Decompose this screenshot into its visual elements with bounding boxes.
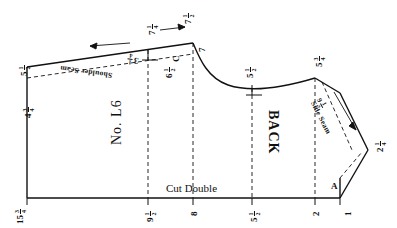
dim-bottom-center-right: 512 <box>248 212 261 223</box>
top-notch-arrow-head <box>178 24 185 30</box>
dim-whole: 9 <box>145 218 155 223</box>
dim-fraction: 12 <box>244 68 257 73</box>
dim-whole: 5 <box>19 72 29 77</box>
dim-fraction: 34 <box>313 57 326 62</box>
dim-fraction: 14 <box>374 142 387 147</box>
dim-whole: 7 <box>197 48 207 53</box>
dim-neck-drop: 7 <box>198 48 207 53</box>
dim-whole: 5 <box>245 74 255 79</box>
dim-whole: 1 <box>343 212 353 217</box>
piece-back-label: BACK <box>266 110 280 154</box>
shoulder-arrow-head <box>90 43 97 49</box>
dim-bottom-right: 2 <box>312 212 321 217</box>
lower-right-edge-line <box>340 150 368 198</box>
neckline-curve <box>193 43 315 89</box>
dim-whole: 8 <box>189 212 199 217</box>
upper-left-edge-line <box>27 43 193 67</box>
marker-c-label: C <box>172 56 181 63</box>
dim-fraction: 34 <box>14 209 27 214</box>
dim-bottom-mid-left: 912 <box>144 212 157 223</box>
dim-whole: 2 <box>375 148 385 153</box>
dim-whole: 5 <box>249 218 259 223</box>
dim-fraction: 14 <box>146 25 159 30</box>
dim-fraction: 12 <box>163 68 176 73</box>
dim-whole: 2 <box>311 212 321 217</box>
dim-fraction: 12 <box>182 14 195 19</box>
side-seam-line <box>340 93 368 150</box>
dim-fraction: 12 <box>248 212 261 217</box>
dim-bottom-far-right: 1 <box>344 212 353 217</box>
dim-top-small-c: 612 <box>163 68 176 79</box>
dim-whole: 5 <box>314 63 324 68</box>
dim-fraction: 34 <box>22 108 35 113</box>
dim-neck-top: 512 <box>244 68 257 79</box>
dim-bottom-mid: 8 <box>190 212 199 217</box>
dim-top-notch-right: 712 <box>182 14 195 25</box>
dim-whole: 6 <box>164 74 174 79</box>
cut-double-label: Cut Double <box>166 183 217 194</box>
dim-top-notch-left: 714 <box>146 25 159 36</box>
dim-whole: 15 <box>15 215 25 224</box>
dim-whole: 7 <box>183 20 193 25</box>
dim-fraction: 12 <box>18 66 31 71</box>
dim-left-lower: 434 <box>22 108 35 119</box>
dim-fraction: 12 <box>144 212 157 217</box>
pattern-diagram-canvas: No. L6 BACK Cut Double Shoulder Seam Sid… <box>0 0 397 228</box>
piece-number-label: No. L6 <box>110 99 124 145</box>
dim-bottom-left: 1534 <box>14 209 27 224</box>
dim-whole: 7 <box>147 31 157 36</box>
dim-shoulder-measure: 314 <box>127 52 139 66</box>
corner-a-label: A <box>331 182 338 191</box>
shoulder-segment-line <box>315 78 340 93</box>
dim-right-edge: 214 <box>374 142 387 153</box>
dim-shoulder-point: 534 <box>313 57 326 68</box>
dim-whole: 4 <box>23 114 33 119</box>
dim-top-left-edge: 512 <box>18 66 31 77</box>
